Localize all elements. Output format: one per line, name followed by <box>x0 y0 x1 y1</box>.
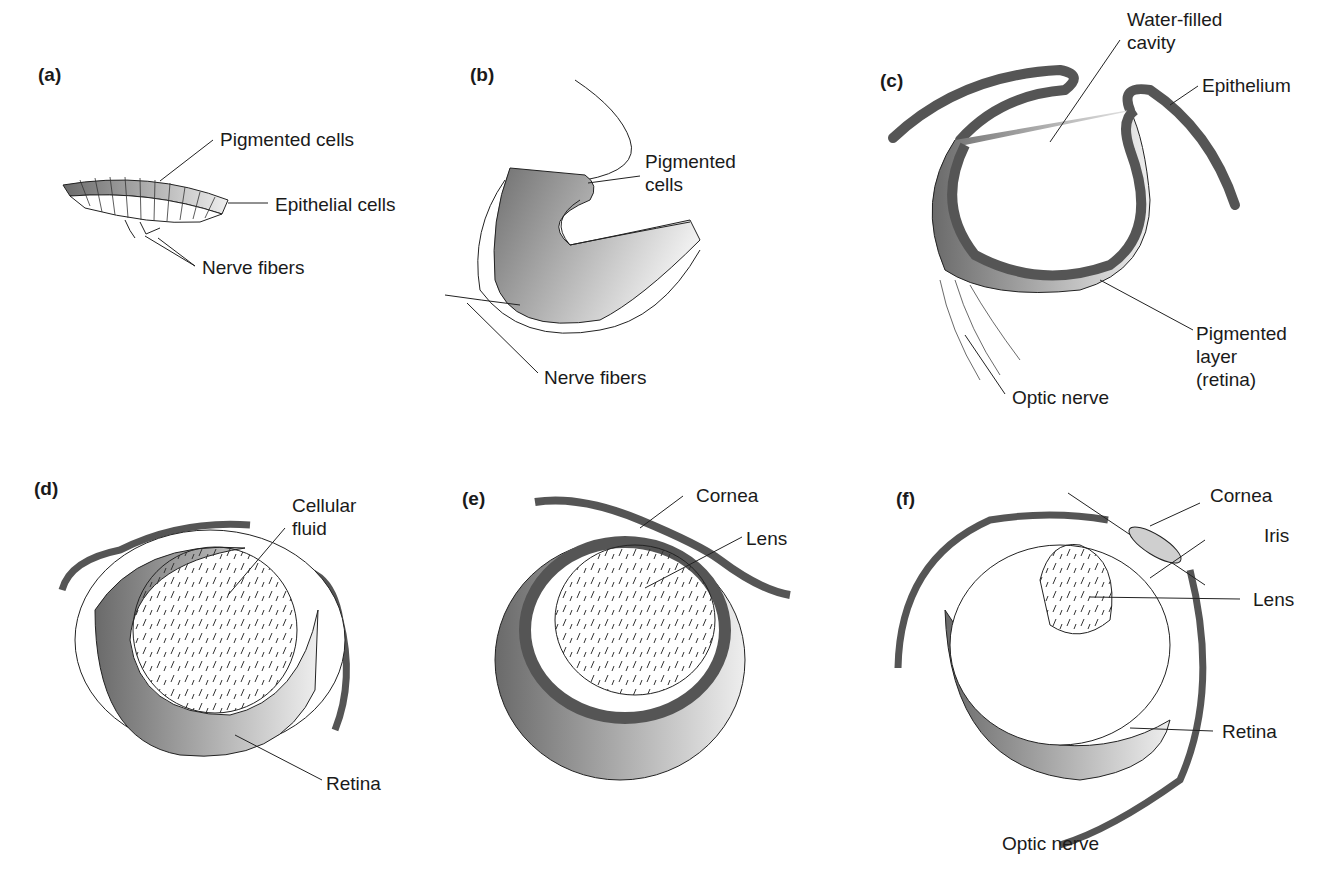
label-optic-nerve: Optic nerve <box>1002 832 1099 855</box>
label-optic-nerve: Optic nerve <box>1012 386 1109 409</box>
label-iris: Iris <box>1264 524 1289 547</box>
panel-d-drawing <box>62 524 346 780</box>
label-pigmented-layer: Pigmented layer (retina) <box>1196 322 1287 391</box>
label-retina: Retina <box>326 772 381 795</box>
label-pigmented-cells: Pigmented cells <box>645 150 736 196</box>
label-water-filled-cavity: Water-filled cavity <box>1127 8 1222 54</box>
panel-e-letter: (e) <box>462 488 485 510</box>
label-cornea: Cornea <box>1210 484 1272 507</box>
panel-a-letter: (a) <box>38 64 61 86</box>
label-cornea: Cornea <box>696 484 758 507</box>
label-retina: Retina <box>1222 720 1277 743</box>
panel-b-letter: (b) <box>470 64 494 86</box>
panel-c-letter: (c) <box>880 70 903 92</box>
panel-b-drawing <box>445 80 700 373</box>
label-pigmented-cells: Pigmented cells <box>220 128 354 151</box>
label-lens: Lens <box>746 527 787 550</box>
panel-f-drawing <box>898 493 1240 845</box>
label-cellular-fluid: Cellular fluid <box>292 494 356 540</box>
eye-evolution-diagram <box>0 0 1340 889</box>
panel-f-letter: (f) <box>896 488 915 510</box>
label-lens: Lens <box>1253 588 1294 611</box>
label-nerve-fibers: Nerve fibers <box>202 256 304 279</box>
label-epithelium: Epithelium <box>1202 74 1291 97</box>
panel-c-drawing <box>893 40 1235 394</box>
label-nerve-fibers: Nerve fibers <box>544 366 646 389</box>
panel-a-drawing <box>63 140 268 266</box>
label-epithelial-cells: Epithelial cells <box>275 193 395 216</box>
panel-d-letter: (d) <box>34 478 58 500</box>
